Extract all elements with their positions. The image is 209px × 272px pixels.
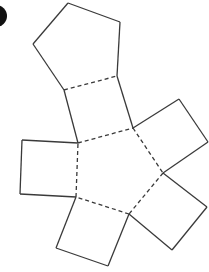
net-faces	[20, 3, 208, 266]
left-square-edge	[22, 140, 78, 143]
net-diagram	[0, 0, 209, 272]
top-pentagon-edge	[117, 22, 120, 76]
right-lower-square-edge	[129, 214, 172, 250]
fold-line	[133, 128, 163, 173]
fold-lines	[64, 76, 163, 214]
left-square-edge	[20, 140, 22, 194]
right-upper-square-edge	[163, 142, 208, 173]
top-pentagon-edge	[68, 3, 120, 22]
left-square-edge	[20, 194, 76, 197]
top-pentagon-edge	[33, 3, 68, 44]
fold-line	[76, 143, 78, 197]
bottom-square-edge	[56, 197, 76, 248]
bottom-square-edge	[108, 214, 129, 266]
label-marker-circle	[0, 5, 7, 27]
right-upper-square-edge	[133, 99, 179, 128]
right-lower-square-edge	[172, 207, 207, 250]
fold-line	[64, 76, 117, 90]
right-lower-square-edge	[163, 173, 207, 207]
bottom-square-edge	[56, 248, 108, 266]
top-square-edge	[64, 90, 78, 143]
fold-line	[76, 197, 129, 214]
top-square-edge	[117, 76, 133, 128]
fold-line	[78, 128, 133, 143]
top-pentagon-edge	[33, 44, 64, 90]
right-upper-square-edge	[179, 99, 208, 142]
fold-line	[129, 173, 163, 214]
